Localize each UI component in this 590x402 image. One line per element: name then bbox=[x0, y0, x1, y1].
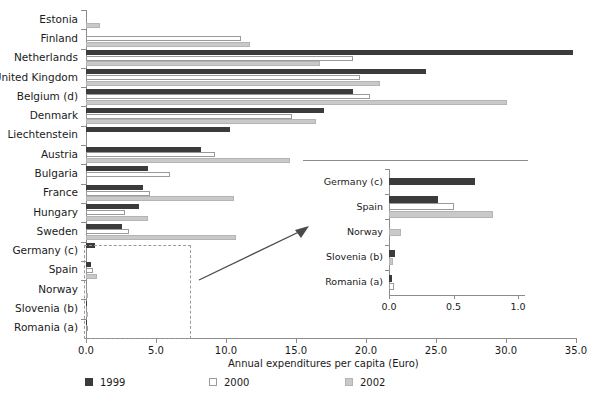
inset-bar-2002-slovenia-b bbox=[389, 258, 393, 265]
bar-2002-austria bbox=[86, 158, 290, 163]
x-axis-tick bbox=[226, 338, 227, 343]
y-axis-label-netherlands: Netherlands bbox=[14, 52, 78, 63]
inset-x-axis-tick-label: 1.0 bbox=[510, 301, 525, 312]
y-axis-label-denmark: Denmark bbox=[30, 110, 78, 121]
bar-1999-belgium-d bbox=[86, 89, 353, 94]
legend-item-2002[interactable]: 2002 bbox=[345, 375, 385, 389]
inset-bar-chart: Germany (c)SpainNorwaySlovenia (b)Romani… bbox=[303, 160, 528, 310]
x-axis-tick-label: 10.0 bbox=[215, 345, 237, 356]
bar-2000-sweden bbox=[86, 229, 129, 234]
bar-1999-sweden bbox=[86, 224, 122, 229]
bar-1999-france bbox=[86, 185, 143, 190]
legend-item-2000[interactable]: 2000 bbox=[209, 375, 249, 389]
bar-2002-hungary bbox=[86, 216, 148, 221]
y-axis-label-hungary: Hungary bbox=[33, 207, 78, 218]
x-axis-tick-label: 15.0 bbox=[285, 345, 307, 356]
y-axis-label-norway: Norway bbox=[38, 284, 78, 295]
inset-bars-plot-area bbox=[389, 169, 527, 295]
inset-y-axis-label-norway: Norway bbox=[347, 227, 383, 237]
bar-1999-bulgaria bbox=[86, 166, 148, 171]
bar-1999-united-kingdom bbox=[86, 69, 426, 74]
bar-1999-denmark bbox=[86, 108, 324, 113]
legend-item-1999[interactable]: 1999 bbox=[85, 375, 125, 389]
inset-y-axis-label-slovenia-b: Slovenia (b) bbox=[326, 252, 383, 262]
bar-2000-hungary bbox=[86, 210, 125, 215]
bar-2002-denmark bbox=[86, 119, 316, 124]
y-axis-label-romania-a: Romania (a) bbox=[14, 322, 78, 333]
x-axis-tick bbox=[296, 338, 297, 343]
bar-2000-netherlands bbox=[86, 56, 353, 61]
bar-1999-netherlands bbox=[86, 50, 573, 55]
inset-x-axis-tick bbox=[389, 295, 390, 299]
y-axis-label-united-kingdom: United Kingdom bbox=[0, 72, 78, 83]
x-axis-title: Annual expenditures per capita (Euro) bbox=[228, 358, 419, 369]
legend-label: 1999 bbox=[100, 377, 125, 388]
x-axis-tick-label: 0.0 bbox=[78, 345, 94, 356]
chart-legend: 199920002002 bbox=[0, 375, 590, 395]
zoom-highlight-box bbox=[84, 245, 191, 339]
x-axis-tick bbox=[506, 338, 507, 343]
legend-label: 2000 bbox=[224, 377, 249, 388]
inset-bar-2000-romania-a bbox=[389, 283, 394, 290]
y-axis-label-sweden: Sweden bbox=[37, 226, 79, 237]
bar-2000-austria bbox=[86, 152, 215, 157]
y-axis-label-bulgaria: Bulgaria bbox=[34, 168, 78, 179]
inset-y-axis-label-germany-c: Germany (c) bbox=[324, 177, 383, 187]
inset-x-axis-tick-label: 0.0 bbox=[381, 301, 396, 312]
x-axis-tick bbox=[576, 338, 577, 343]
bar-1999-liechtenstein bbox=[86, 127, 230, 132]
y-axis-label-slovenia-b: Slovenia (b) bbox=[15, 303, 78, 314]
bar-2000-denmark bbox=[86, 114, 292, 119]
chart-figure: EstoniaFinlandNetherlandsUnited KingdomB… bbox=[0, 0, 590, 402]
y-axis-label-finland: Finland bbox=[40, 33, 78, 44]
bar-2000-bulgaria bbox=[86, 172, 170, 177]
inset-bar-1999-spain bbox=[389, 196, 438, 203]
legend-label: 2002 bbox=[360, 377, 385, 388]
y-axis-category-labels: EstoniaFinlandNetherlandsUnited KingdomB… bbox=[0, 0, 84, 338]
bar-2002-belgium-d bbox=[86, 100, 507, 105]
inset-bar-1999-germany-c bbox=[389, 178, 475, 185]
bar-2002-estonia bbox=[86, 23, 100, 28]
bar-2000-united-kingdom bbox=[86, 75, 360, 80]
inset-y-axis-label-romania-a: Romania (a) bbox=[325, 277, 383, 287]
x-axis-tick-label: 20.0 bbox=[355, 345, 377, 356]
y-axis-label-belgium-d: Belgium (d) bbox=[17, 91, 78, 102]
inset-bar-1999-slovenia-b bbox=[389, 250, 395, 257]
bar-2000-finland bbox=[86, 36, 241, 41]
inset-y-axis-label-spain: Spain bbox=[356, 202, 383, 212]
legend-swatch-icon-1999 bbox=[85, 378, 93, 386]
inset-x-axis-tick bbox=[518, 295, 519, 299]
legend-swatch-icon-2002 bbox=[345, 378, 353, 386]
bar-2000-belgium-d bbox=[86, 94, 370, 99]
inset-x-axis-tick bbox=[454, 295, 455, 299]
callout-arrow-icon bbox=[195, 222, 315, 284]
bar-2002-france bbox=[86, 196, 234, 201]
inset-y-axis-category-labels: Germany (c)SpainNorwaySlovenia (b)Romani… bbox=[303, 161, 387, 295]
bar-2002-netherlands bbox=[86, 61, 320, 66]
bar-2002-united-kingdom bbox=[86, 81, 380, 86]
inset-bar-2000-spain bbox=[389, 203, 454, 210]
bar-1999-hungary bbox=[86, 204, 139, 209]
bar-2000-france bbox=[86, 191, 150, 196]
inset-x-axis-tick-label: 0.5 bbox=[446, 301, 461, 312]
y-axis-label-estonia: Estonia bbox=[39, 14, 78, 25]
inset-bar-2002-norway bbox=[389, 229, 401, 236]
x-axis-tick-label: 25.0 bbox=[425, 345, 447, 356]
y-axis-label-liechtenstein: Liechtenstein bbox=[7, 129, 78, 140]
x-axis-tick-label: 30.0 bbox=[495, 345, 517, 356]
bar-1999-austria bbox=[86, 147, 201, 152]
y-axis-label-spain: Spain bbox=[49, 264, 78, 275]
x-axis-tick bbox=[366, 338, 367, 343]
x-axis-tick-label: 5.0 bbox=[148, 345, 164, 356]
x-axis-tick-label: 35.0 bbox=[565, 345, 587, 356]
x-axis-tick bbox=[436, 338, 437, 343]
y-axis-label-austria: Austria bbox=[41, 149, 78, 160]
y-axis-label-france: France bbox=[43, 187, 78, 198]
inset-x-axis-line bbox=[389, 295, 525, 296]
legend-swatch-icon-2000 bbox=[209, 378, 217, 386]
y-axis-label-germany-c: Germany (c) bbox=[12, 245, 78, 256]
inset-bar-1999-romania-a bbox=[389, 275, 392, 282]
inset-bar-2002-spain bbox=[389, 211, 493, 218]
bar-2002-finland bbox=[86, 42, 250, 47]
